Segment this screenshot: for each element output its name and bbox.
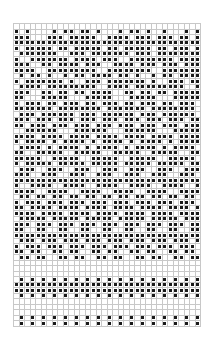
knitting-chart-grid bbox=[13, 23, 201, 327]
filled-stitch-cell bbox=[196, 321, 202, 327]
